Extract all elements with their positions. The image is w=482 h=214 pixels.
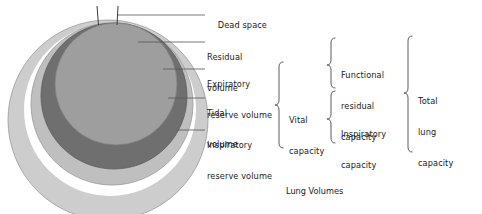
- label-inspiratory-capacity-line1: Inspiratory: [341, 129, 386, 139]
- label-total-lung-capacity: Total lung capacity: [418, 76, 453, 188]
- label-vital-capacity-line1: Vital: [289, 115, 324, 125]
- label-inspiratory-capacity: Inspiratory capacity: [341, 109, 386, 191]
- brace-functional-residual-capacity: [327, 38, 335, 88]
- brace-vital-capacity: [275, 62, 283, 148]
- label-inspiratory-reserve-volume-line1: Inspiratory: [207, 140, 272, 150]
- label-inspiratory-reserve-volume-line2: reserve volume: [207, 171, 272, 181]
- lung-volumes-figure: Dead space Residual volume Expiratory re…: [0, 0, 482, 214]
- label-vital-capacity: Vital capacity: [289, 95, 324, 177]
- label-inspiratory-reserve-volume: Inspiratory reserve volume: [207, 120, 272, 202]
- label-total-lung-capacity-line3: capacity: [418, 158, 453, 168]
- figure-caption: Lung Volumes: [286, 186, 343, 196]
- label-total-lung-capacity-line1: Total: [418, 96, 453, 106]
- label-tidal-volume-line1: Tidal: [207, 108, 238, 118]
- label-functional-residual-capacity-line1: Functional: [341, 70, 384, 80]
- label-vital-capacity-line2: capacity: [289, 146, 324, 156]
- brace-inspiratory-capacity: [327, 91, 335, 143]
- label-total-lung-capacity-line2: lung: [418, 127, 453, 137]
- label-dead-space-line1: Dead space: [218, 20, 267, 30]
- label-inspiratory-capacity-line2: capacity: [341, 160, 386, 170]
- residual-volume-region: [55, 23, 177, 145]
- brace-total-lung-capacity: [404, 36, 412, 152]
